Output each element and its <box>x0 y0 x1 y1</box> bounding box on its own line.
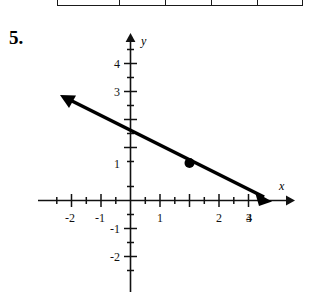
y-tick-label: -2 <box>110 250 120 264</box>
x-tick-label: 1 <box>157 211 163 225</box>
y-tick-label: -1 <box>110 222 120 236</box>
page-canvas: y 6 6 4 2 5. <box>0 0 317 305</box>
coordinate-graph: -2 -1 1 2 3 4 4 3 1 -1 -2 y x <box>0 0 317 305</box>
y-tick-label: 3 <box>114 85 120 99</box>
y-tick-labels: 4 3 1 -1 -2 <box>110 57 120 264</box>
x-tick-label: -2 <box>65 211 75 225</box>
graph-svg: -2 -1 1 2 3 4 4 3 1 -1 -2 y x <box>0 0 317 305</box>
plotted-line <box>68 99 264 197</box>
y-axis-label: y <box>140 34 147 48</box>
line-arrowhead-right <box>255 192 272 206</box>
y-tick-label: 4 <box>114 57 120 71</box>
axes-group <box>38 33 295 292</box>
y-axis-arrowhead <box>126 33 136 42</box>
x-tick-labels: -2 -1 1 2 3 <box>65 211 252 225</box>
x-axis-arrowhead <box>286 196 295 206</box>
x-tick-label: 2 <box>216 211 222 225</box>
plotted-line-group <box>60 95 272 206</box>
y-tick-label: 1 <box>114 157 120 171</box>
plotted-point-marker <box>185 158 195 168</box>
x-tick-label: -1 <box>95 211 105 225</box>
x-axis-label: x <box>278 179 285 193</box>
x-tick-label: 4 <box>246 211 252 225</box>
